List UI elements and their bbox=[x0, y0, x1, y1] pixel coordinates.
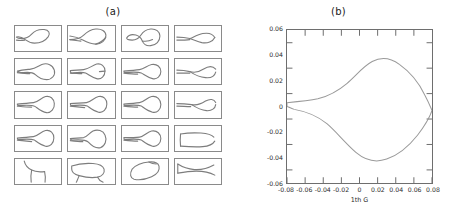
contour-thumbnail bbox=[14, 25, 62, 52]
panel-a: (a) bbox=[0, 0, 226, 218]
contour-thumbnail bbox=[67, 91, 115, 118]
contour-thumbnail bbox=[121, 25, 169, 52]
plot-frame bbox=[286, 29, 433, 184]
y-tick-label: 0.06 bbox=[269, 26, 283, 32]
contour-curve bbox=[177, 67, 216, 78]
contour-thumbnail bbox=[67, 158, 115, 185]
contour-thumbnail bbox=[121, 58, 169, 85]
contour-curve bbox=[17, 130, 54, 146]
contour-thumbnail bbox=[14, 125, 62, 152]
contour-curve bbox=[24, 161, 45, 182]
contour-thumbnail bbox=[14, 158, 62, 185]
contour-curve bbox=[178, 164, 215, 175]
x-tick-label: 0.08 bbox=[426, 187, 440, 193]
panel-b-title: (b) bbox=[226, 6, 451, 17]
x-tick-label: -0.06 bbox=[296, 187, 312, 193]
y-tick-label: -0.04 bbox=[267, 155, 283, 161]
contour-curve bbox=[177, 100, 216, 111]
contour-curve bbox=[71, 64, 106, 79]
contour-thumbnail bbox=[67, 58, 115, 85]
contour-thumbnail bbox=[174, 158, 222, 185]
trajectory-curve bbox=[287, 59, 432, 161]
contour-curve bbox=[177, 33, 215, 43]
x-tick-label: -0.04 bbox=[315, 187, 331, 193]
contour-thumbnail bbox=[14, 91, 62, 118]
y-axis-tick-labels: 0.06 0.04 0.02 0 -0.02 -0.04 -0.06 bbox=[250, 29, 283, 184]
x-axis-label: 1th G bbox=[286, 197, 433, 203]
contour-thumbnail bbox=[67, 125, 115, 152]
x-tick-label: 0.04 bbox=[389, 187, 403, 193]
contour-curve bbox=[72, 163, 105, 182]
x-tick-label: -0.08 bbox=[278, 187, 294, 193]
contour-thumbnail bbox=[174, 91, 222, 118]
x-tick-label: 0.06 bbox=[408, 187, 422, 193]
scientific-figure: (a) bbox=[0, 0, 451, 218]
contour-curve bbox=[71, 130, 107, 148]
contour-curve bbox=[180, 132, 215, 146]
contour-thumbnail bbox=[121, 125, 169, 152]
panel-a-title: (a) bbox=[0, 6, 226, 17]
contour-thumbnail bbox=[67, 25, 115, 52]
contour-curve bbox=[16, 29, 49, 43]
contour-curve bbox=[123, 130, 160, 145]
contour-curve bbox=[17, 64, 54, 80]
contour-curve bbox=[130, 162, 159, 180]
contour-curve bbox=[126, 29, 159, 46]
x-tick-label: -0.02 bbox=[333, 187, 349, 193]
y-tick-label: 0 bbox=[279, 103, 283, 109]
contour-curve bbox=[123, 65, 160, 79]
contour-thumbnail bbox=[14, 58, 62, 85]
y-tick-label: -0.02 bbox=[267, 129, 283, 135]
contour-curve bbox=[17, 97, 54, 113]
contour-curve bbox=[123, 97, 160, 113]
x-tick-label: 0 bbox=[358, 187, 362, 193]
y-tick-label: 0.02 bbox=[269, 78, 283, 84]
thumbnail-grid bbox=[14, 25, 222, 185]
y-tick-label: 0.04 bbox=[269, 52, 283, 58]
contour-thumbnail bbox=[174, 125, 222, 152]
contour-curve bbox=[71, 97, 108, 113]
contour-curve bbox=[70, 29, 106, 44]
panel-b: (b) 0.06 0.04 0.02 0 -0.02 -0.04 -0.06 bbox=[226, 0, 451, 218]
contour-thumbnail bbox=[121, 158, 169, 185]
x-tick-label: 0.02 bbox=[371, 187, 385, 193]
contour-thumbnail bbox=[121, 91, 169, 118]
contour-thumbnail bbox=[174, 58, 222, 85]
axis-tickmarks bbox=[287, 30, 432, 183]
contour-thumbnail bbox=[174, 25, 222, 52]
